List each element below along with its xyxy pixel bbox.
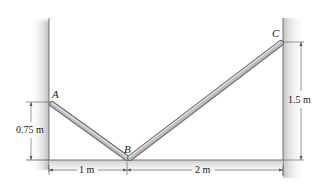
rod-ab (52, 103, 127, 158)
dimension-right-height-label: 1.5 m (288, 94, 311, 105)
point-a-label: A (51, 88, 59, 100)
point-c-label: C (272, 27, 280, 39)
floor (26, 160, 283, 178)
left-wall (30, 18, 49, 172)
diagram-svg: A B C 0.75 m 1.5 m 1 m 2 m (0, 0, 336, 189)
point-b-label: B (124, 143, 131, 155)
dimension-left-height-label: 0.75 m (16, 124, 44, 135)
rod-bc (129, 42, 281, 158)
rod-diagram: A B C 0.75 m 1.5 m 1 m 2 m (0, 0, 336, 189)
dimension-left-span-label: 1 m (79, 164, 95, 175)
dimension-right-span-label: 2 m (195, 164, 211, 175)
